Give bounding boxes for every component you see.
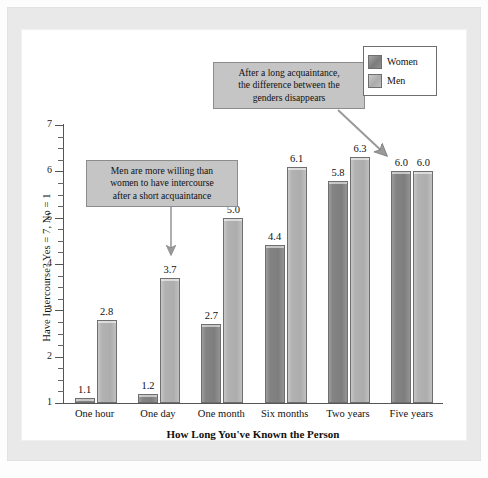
chart-screenshot: 1234567 Have Intercourse? Yes = 7, No = …	[0, 0, 488, 478]
callout-line: After a long acquaintance,	[219, 67, 359, 79]
legend-item-men: Men	[368, 71, 432, 90]
callout-line: genders disappears	[219, 92, 359, 104]
legend-swatch-women-icon	[368, 55, 382, 69]
arrow-long-acquaintance	[338, 110, 386, 155]
callout-line: women to have intercourse	[92, 177, 232, 189]
callout-line: Men are more willing than	[92, 165, 232, 177]
plot-area: 1234567 Have Intercourse? Yes = 7, No = …	[0, 0, 488, 478]
legend-swatch-men-icon	[368, 74, 382, 88]
callout-long-acquaintance: After a long acquaintance, the differenc…	[213, 62, 365, 109]
legend-label-men: Men	[387, 75, 405, 86]
legend-label-women: Women	[387, 56, 418, 67]
chart-legend: Women Men	[363, 46, 437, 96]
legend-item-women: Women	[368, 52, 432, 71]
callout-short-acquaintance: Men are more willing than women to have …	[86, 160, 238, 207]
callout-line: the difference between the	[219, 79, 359, 91]
callout-line: after a short acquaintance	[92, 190, 232, 202]
